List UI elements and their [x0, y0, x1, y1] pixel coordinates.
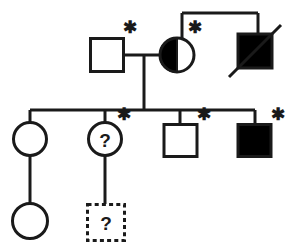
individual-II-1-female-unaffected[interactable] — [14, 123, 47, 156]
individual-I-1-male-unaffected[interactable] — [91, 39, 124, 72]
connection-lines — [30, 13, 258, 204]
unknown-status-label-III-2: ? — [100, 213, 112, 234]
pedigree-chart: ? ? ✱ ✱ ✱ ✱ ✱ Family pedigree pedigree-c… — [0, 0, 287, 247]
individual-II-3-male-unaffected[interactable] — [164, 125, 197, 157]
asterisk-marker-II-4: ✱ — [271, 105, 285, 124]
pedigree-diagram-canvas: ? ? ✱ ✱ ✱ ✱ ✱ — [0, 0, 287, 247]
unknown-status-label-II-2: ? — [99, 130, 111, 151]
asterisk-marker-II-3: ✱ — [197, 105, 211, 124]
individual-II-4-male-affected[interactable] — [238, 125, 271, 157]
asterisk-marker-I-1: ✱ — [123, 18, 137, 37]
asterisk-marker-I-2: ✱ — [188, 18, 202, 37]
individual-I-2-female-carrier[interactable] — [159, 37, 194, 73]
individual-I-3-male-affected-deceased[interactable] — [229, 25, 281, 77]
half-fill-left-shading — [159, 37, 177, 73]
individual-III-1-female-unaffected[interactable] — [13, 204, 48, 239]
asterisk-marker-II-2: ✱ — [117, 105, 131, 124]
